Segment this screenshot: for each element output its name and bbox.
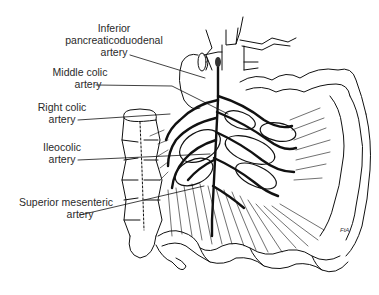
label-ileocolic-artery: Ileocolic artery	[40, 141, 84, 165]
label-line: Ileocolic	[40, 141, 84, 153]
appendix-terminal-ileum	[156, 231, 348, 272]
label-line: artery	[18, 208, 114, 220]
artist-signature: FtA	[340, 227, 349, 233]
label-line: Superior mesenteric	[18, 196, 114, 208]
label-middle-colic-artery: Middle colic artery	[48, 66, 112, 90]
transverse-colon	[240, 69, 371, 256]
label-superior-mesenteric-artery: Superior mesenteric artery	[18, 196, 114, 220]
label-line: artery	[34, 113, 90, 125]
duodenum	[179, 53, 208, 109]
label-line: artery	[40, 153, 84, 165]
label-line: pancreaticoduodenal	[63, 34, 165, 46]
label-right-colic-artery: Right colic artery	[34, 101, 90, 125]
label-line: artery	[63, 46, 165, 58]
label-line: artery	[48, 78, 112, 90]
label-line: Middle colic	[48, 66, 112, 78]
label-line: Inferior	[63, 22, 165, 34]
ascending-colon	[122, 109, 162, 258]
label-inferior-pancreaticoduodenal-artery: Inferior pancreaticoduodenal artery	[63, 22, 165, 58]
anatomy-diagram: Inferior pancreaticoduodenal artery Midd…	[0, 0, 379, 295]
label-line: Right colic	[34, 101, 90, 113]
